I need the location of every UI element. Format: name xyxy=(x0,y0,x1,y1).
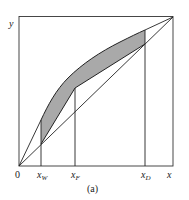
diagonal-line xyxy=(19,17,173,166)
x-d-label: xD xyxy=(140,169,151,182)
corner-to-curve-line xyxy=(145,17,173,30)
x-f-sub: F xyxy=(74,174,80,182)
x-f-label: xF xyxy=(70,169,80,182)
x-w-label: xW xyxy=(36,169,48,182)
shaded-region xyxy=(41,30,145,144)
origin-to-curve-line xyxy=(19,120,41,166)
origin-label: 0 xyxy=(15,169,20,180)
x-d-sub: D xyxy=(144,174,150,182)
diagram-canvas: y 0 xW xF xD x (a) xyxy=(0,0,189,200)
x-w-sub: W xyxy=(41,174,48,182)
y-axis-label: y xyxy=(8,18,14,29)
x-axis-label: x xyxy=(166,169,172,180)
figure-caption: (a) xyxy=(87,183,98,195)
